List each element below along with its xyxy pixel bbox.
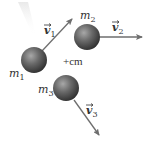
label-m1: m1 (9, 67, 25, 82)
label-m1-name: m (9, 67, 19, 80)
label-m2-name: m (80, 9, 90, 22)
center-of-mass-diagram: m1 m2 m3 v1 v2 v3 +cm (0, 0, 154, 147)
mass-sphere-m3 (53, 75, 79, 101)
label-v1-sub: 1 (50, 30, 55, 39)
label-v3-sub: 3 (92, 110, 97, 119)
diagram-canvas: m1 m2 m3 v1 v2 v3 +cm (0, 0, 154, 147)
decorative-streak (18, 2, 36, 36)
label-v3: v3 (86, 104, 98, 120)
center-of-mass-label: +cm (63, 55, 83, 67)
label-m1-sub: 1 (19, 73, 24, 82)
label-v1: v1 (44, 24, 56, 40)
label-m3-name: m (38, 83, 48, 96)
svg-text:v3: v3 (86, 104, 98, 119)
label-m2-sub: 2 (90, 15, 95, 24)
mass-sphere-m2 (74, 24, 100, 50)
label-v2: v2 (112, 21, 124, 37)
svg-text:v1: v1 (44, 24, 56, 39)
svg-text:v2: v2 (112, 21, 124, 36)
label-m2: m2 (80, 9, 96, 24)
mass-sphere-m1 (21, 47, 47, 73)
label-v2-sub: 2 (118, 27, 123, 36)
label-m3: m3 (38, 83, 54, 98)
label-m3-sub: 3 (48, 89, 53, 98)
